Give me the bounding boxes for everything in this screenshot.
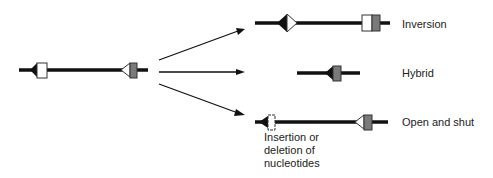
hybrid-construct	[297, 66, 360, 81]
open-and-shut-label: Open and shut	[402, 116, 474, 129]
white-triangle-icon	[121, 63, 130, 77]
white-triangle-icon	[355, 115, 364, 129]
note-line-2: deletion of	[264, 144, 320, 157]
note-line-1: Insertion or	[264, 131, 320, 144]
arrow-to-open-and-shut	[159, 84, 238, 113]
white-box-icon	[362, 15, 372, 31]
white-box-icon	[268, 115, 275, 130]
arrows	[159, 28, 245, 116]
inversion-construct	[255, 14, 390, 32]
white-half-diamond-icon	[287, 14, 297, 32]
black-triangle-icon	[325, 66, 333, 80]
open-and-shut-construct	[255, 115, 388, 130]
grey-box-icon	[130, 63, 137, 78]
note-line-3: nucleotides	[264, 157, 320, 170]
arrowhead-icon	[236, 28, 245, 35]
arrowhead-icon	[234, 109, 245, 116]
grey-box-icon	[372, 15, 380, 31]
black-triangle-icon	[259, 116, 268, 128]
grey-box-icon	[333, 66, 341, 81]
insertion-deletion-note: Insertion or deletion of nucleotides	[264, 131, 320, 170]
black-half-diamond-icon	[277, 14, 287, 32]
black-triangle-icon	[30, 63, 37, 77]
inversion-label: Inversion	[402, 18, 447, 31]
grey-box-icon	[364, 115, 372, 130]
arrow-to-inversion	[159, 31, 238, 60]
hybrid-label: Hybrid	[402, 67, 434, 80]
arrowhead-icon	[236, 69, 245, 75]
white-box-icon	[37, 63, 47, 78]
source-construct	[19, 63, 148, 78]
